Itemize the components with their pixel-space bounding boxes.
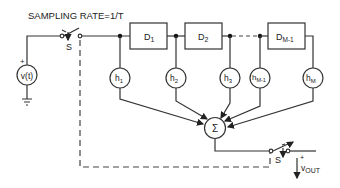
- ground-icon: [22, 99, 32, 105]
- tap-weight-m: hM: [303, 68, 323, 88]
- tap-weight-m-1: hM-1: [250, 68, 270, 88]
- delay-block-1: D1: [130, 23, 167, 49]
- source-polarity: +: [20, 57, 25, 66]
- output-voltage: + vOUT: [297, 154, 321, 178]
- transversal-filter-diagram: SAMPLING RATE=1/T v(t) + S D1 D2 DM: [0, 0, 340, 188]
- summer-output-wire: [215, 139, 269, 151]
- svg-text:vOUT: vOUT: [301, 163, 321, 174]
- voltage-source: v(t) +: [17, 36, 60, 105]
- ganged-switch-link: [80, 40, 270, 167]
- input-switch: S: [60, 28, 82, 52]
- sigma-symbol: Σ: [212, 123, 218, 134]
- output-switch: S: [269, 142, 293, 165]
- tap-weight-3: h3: [220, 68, 240, 88]
- svg-text:+: +: [300, 154, 304, 161]
- input-switch-label: S: [66, 42, 72, 52]
- output-switch-label: S: [275, 155, 281, 165]
- tap-weight-2: h2: [166, 68, 186, 88]
- source-label: v(t): [21, 71, 33, 81]
- tap-weight-1: h1: [110, 68, 130, 88]
- summer: Σ: [205, 118, 226, 139]
- delay-block-m-1: DM-1: [268, 23, 305, 49]
- delay-block-2: D2: [185, 23, 222, 49]
- sampling-rate-label: SAMPLING RATE=1/T: [28, 10, 124, 21]
